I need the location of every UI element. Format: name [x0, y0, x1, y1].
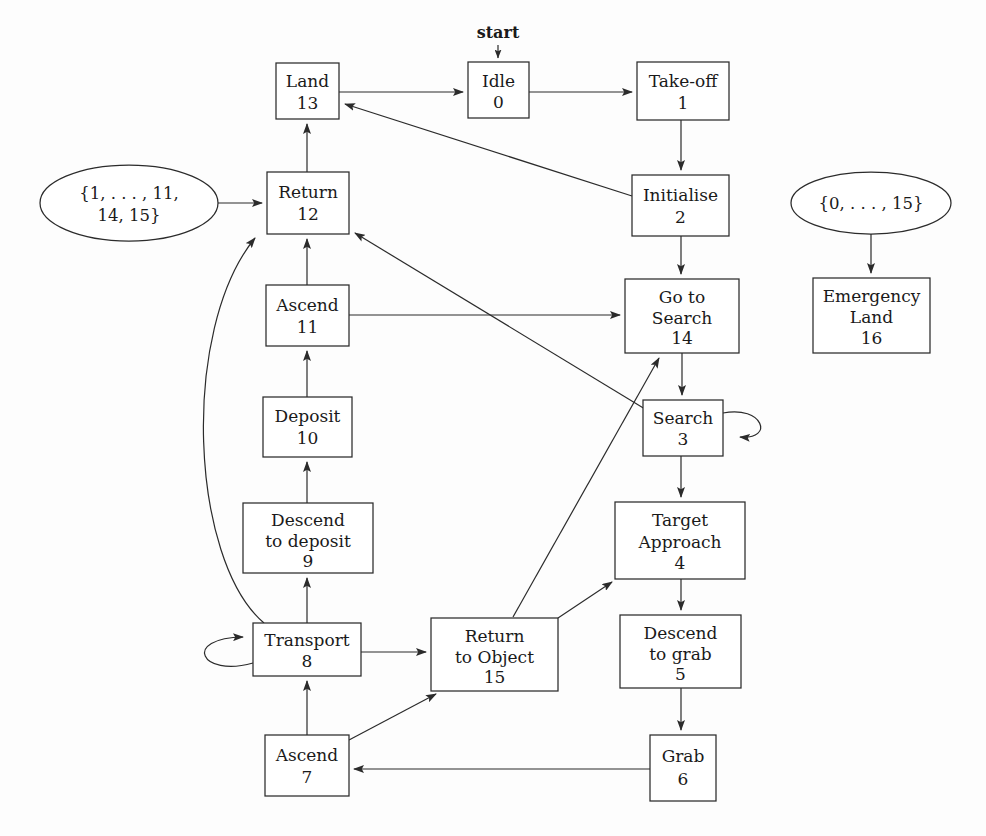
figure-caption: [0, 812, 986, 836]
node-idle-label: Idle: [482, 71, 515, 91]
node-search-label: Search: [653, 408, 713, 428]
node-emergency-land-line1: Emergency: [823, 286, 921, 306]
node-descend-to-grab[interactable]: Descend to grab 5: [620, 615, 741, 688]
node-return-12-label: Return: [278, 182, 338, 202]
node-return-to-object-line2: to Object: [455, 647, 534, 667]
node-ascend-11-label: Ascend: [275, 295, 339, 315]
node-initialise[interactable]: Initialise 2: [632, 175, 729, 236]
edge-ascend7-to-returnobject: [349, 694, 436, 740]
node-target-approach[interactable]: Target Approach 4: [615, 502, 745, 579]
node-deposit-label: Deposit: [275, 406, 341, 426]
node-descend-to-grab-line2: to grab: [649, 644, 712, 664]
node-ascend-7[interactable]: Ascend 7: [265, 735, 349, 796]
node-ascend-11-id: 11: [297, 317, 319, 337]
node-descend-to-deposit-id: 9: [303, 551, 314, 571]
node-grab[interactable]: Grab 6: [650, 735, 716, 801]
node-land-id: 13: [297, 93, 319, 113]
start-marker: start: [477, 23, 520, 42]
node-go-to-search[interactable]: Go to Search 14: [625, 279, 739, 353]
node-takeoff-label: Take-off: [649, 71, 719, 91]
node-takeoff-id: 1: [678, 93, 689, 113]
set-right-line1: {0, . . . , 15}: [819, 194, 924, 213]
node-land[interactable]: Land 13: [276, 63, 339, 119]
node-emergency-land-id: 16: [861, 328, 883, 348]
node-return-12-id: 12: [297, 204, 319, 224]
node-emergency-land-line2: Land: [850, 307, 893, 327]
node-return-to-object-line1: Return: [465, 626, 525, 646]
node-target-approach-id: 4: [675, 553, 686, 573]
node-idle[interactable]: Idle 0: [468, 62, 529, 118]
node-takeoff[interactable]: Take-off 1: [637, 62, 729, 120]
node-return-to-object-id: 15: [484, 667, 506, 687]
node-ascend-11[interactable]: Ascend 11: [266, 285, 349, 346]
node-descend-to-grab-line1: Descend: [644, 623, 718, 643]
node-grab-id: 6: [678, 769, 689, 789]
node-transport-id: 8: [302, 651, 313, 671]
node-land-label: Land: [286, 71, 329, 91]
node-idle-id: 0: [493, 92, 504, 112]
edge-transport-self-loop: [205, 637, 253, 666]
node-emergency-land[interactable]: Emergency Land 16: [813, 278, 930, 353]
node-return-12[interactable]: Return 12: [267, 172, 349, 234]
set-left-line2: 14, 15}: [98, 206, 161, 225]
node-descend-to-deposit-line2: to deposit: [265, 531, 351, 551]
node-return-to-object[interactable]: Return to Object 15: [431, 618, 558, 691]
edge-returnobject-to-targetapproach: [558, 582, 612, 618]
diagram-canvas: start {1, . . . , 11, 14, 15} {0, . . . …: [0, 0, 986, 836]
set-left-line1: {1, . . . , 11,: [79, 184, 179, 203]
node-descend-to-deposit-line1: Descend: [271, 510, 345, 530]
node-ascend-7-id: 7: [302, 767, 313, 787]
node-set-right[interactable]: {0, . . . , 15}: [791, 172, 951, 234]
node-initialise-label: Initialise: [643, 185, 718, 205]
node-search-id: 3: [678, 429, 689, 449]
node-grab-label: Grab: [662, 746, 705, 766]
node-initialise-id: 2: [675, 207, 686, 227]
node-go-to-search-line2: Search: [652, 308, 712, 328]
node-target-approach-line1: Target: [652, 510, 708, 530]
node-transport-label: Transport: [264, 630, 350, 650]
state-machine-svg: start {1, . . . , 11, 14, 15} {0, . . . …: [0, 0, 986, 836]
set-left-ellipse[interactable]: [40, 165, 218, 241]
node-deposit[interactable]: Deposit 10: [263, 397, 352, 457]
node-descend-to-deposit[interactable]: Descend to deposit 9: [243, 503, 373, 573]
node-go-to-search-id: 14: [671, 328, 693, 348]
node-descend-to-grab-id: 5: [675, 664, 686, 684]
node-set-left[interactable]: {1, . . . , 11, 14, 15}: [40, 165, 218, 241]
node-deposit-id: 10: [297, 428, 319, 448]
edge-search-self-loop: [723, 412, 761, 437]
edge-search-to-return12: [355, 233, 645, 409]
node-transport[interactable]: Transport 8: [253, 623, 361, 676]
node-go-to-search-line1: Go to: [659, 287, 705, 307]
node-target-approach-line2: Approach: [637, 532, 721, 552]
node-ascend-7-label: Ascend: [275, 745, 339, 765]
node-search[interactable]: Search 3: [643, 400, 723, 456]
start-label: start: [477, 23, 520, 42]
